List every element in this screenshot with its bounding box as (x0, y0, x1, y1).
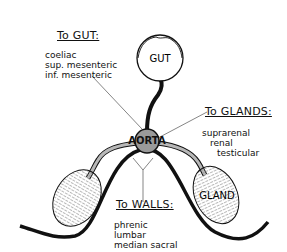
gut-vessel (147, 78, 162, 132)
gut-heading: To GUT: (57, 31, 99, 41)
glands-branch-3: testicular (217, 148, 259, 158)
aorta-label: AORTA (128, 135, 166, 146)
gland-label: GLAND (199, 190, 235, 201)
walls-branch-2: lumbar (114, 230, 146, 240)
walls-leader (133, 158, 153, 170)
gut-leader (92, 76, 142, 129)
left-gland (43, 161, 111, 235)
walls-heading: To WALLS: (116, 200, 174, 210)
gut-branch-2: sup. mesenteric (45, 60, 117, 70)
glands-heading: To GLANDS: (205, 107, 272, 117)
glands-branch-1: suprarenal (202, 128, 250, 138)
gut-branch-1: coeliac (45, 50, 76, 60)
gut-label: GUT (149, 53, 171, 64)
gut-branch-3: inf. mesenteric (45, 70, 112, 80)
walls-branch-3: median sacral (114, 240, 177, 250)
glands-branch-2: renal (210, 138, 233, 148)
walls-branch-1: phrenic (114, 220, 148, 230)
aorta-branches-diagram: AORTA GUT GLAND (0, 0, 287, 252)
